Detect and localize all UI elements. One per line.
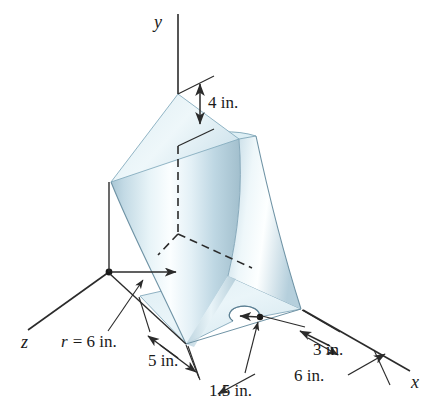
plate-length-dimension-label: 6 in. [294,366,324,385]
three-ext-line-left [262,316,305,327]
shell-geometry [111,94,301,347]
radius-dimension-group: r= 6 in. [61,280,143,351]
z-axis-label: z [20,332,28,352]
figure-canvas: 4 in. r= 6 in. 5 in. 1.5 in. [0,0,434,419]
notch-radius-dimension-label: 1.5 in. [209,381,252,400]
six-dimension-arrow-right [348,354,385,375]
engineering-figure: 4 in. r= 6 in. 5 in. 1.5 in. [0,0,434,419]
notch-radius-arrow [240,316,259,317]
z-axis-line [28,272,109,330]
y-axis-label: y [152,12,162,32]
three-ext-line-right [302,310,340,332]
notch-offset-dimension-label: 3 in. [313,340,343,359]
radius-dimension-label: r= 6 in. [61,332,117,351]
radius-value: = 6 in. [73,332,117,351]
notch-radius-leader [245,322,258,373]
height-dimension-label: 4 in. [208,93,238,112]
plate-width-dimension-label: 5 in. [148,351,178,370]
height-ext-line-top [178,76,214,94]
semicircular-notch [229,306,259,321]
six-ext-line-left [188,346,200,380]
x-axis-label: x [410,372,419,392]
radius-symbol: r [61,332,68,351]
